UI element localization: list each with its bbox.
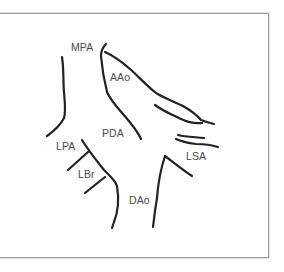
label-lbr: LBr xyxy=(78,169,95,180)
label-pda: PDA xyxy=(102,128,124,139)
label-mpa: MPA xyxy=(71,42,93,53)
aao-left-wall xyxy=(101,44,141,139)
dao-right-wall xyxy=(153,156,192,227)
lsa-lower-wall xyxy=(176,139,218,147)
mpa-left-wall xyxy=(47,57,65,136)
label-lpa: LPA xyxy=(56,141,75,152)
label-aao: AAo xyxy=(110,72,130,83)
label-lsa: LSA xyxy=(186,151,206,162)
label-dao: DAo xyxy=(129,195,150,206)
vessel-diagram xyxy=(0,0,284,272)
lsa-upper-wall xyxy=(178,135,204,138)
